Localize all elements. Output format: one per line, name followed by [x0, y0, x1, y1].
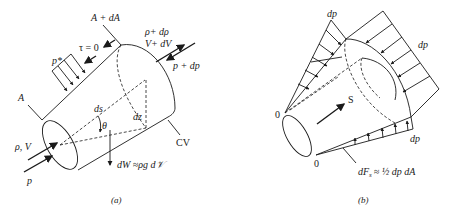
- label-outlet-pressure: p + dp: [172, 60, 200, 71]
- caption-a: (a): [111, 195, 122, 205]
- label-force: dFs≈ ½ dp dA: [358, 166, 416, 179]
- label-outlet-velocity: V+ dV: [145, 38, 173, 49]
- direction-arrow: [317, 104, 344, 124]
- label-inlet-pressure: p: [26, 175, 32, 186]
- label-origin-bottom: 0: [314, 158, 319, 169]
- figure-a: A A + dA τ = 0 p* ρ, V p ρ+ dρ V+ dV p +…: [14, 12, 200, 205]
- inlet-face-b: [277, 111, 317, 161]
- label-area-in: A: [17, 92, 25, 103]
- label-dp-right: dp: [418, 39, 428, 50]
- label-area-out: A + dA: [90, 12, 121, 23]
- label-control-volume: CV: [176, 137, 191, 148]
- label-pressure-side: p*: [51, 55, 62, 66]
- label-height: dz: [133, 111, 142, 122]
- inner-body: [362, 58, 396, 100]
- label-shear: τ = 0: [79, 42, 99, 53]
- figure-b: dp dp dp 0 0 S dFs≈ ½ dp dA (b): [275, 8, 439, 205]
- label-inlet-props: ρ, V: [14, 141, 33, 152]
- label-outlet-density: ρ+ dρ: [144, 26, 169, 37]
- caption-b: (b): [358, 195, 369, 205]
- label-dp-top: dp: [327, 8, 337, 19]
- label-direction: S: [348, 94, 354, 105]
- label-origin-top: 0: [275, 109, 280, 120]
- label-weight: dW ≈ρg d𝒱: [117, 159, 168, 170]
- label-dp-bottom: dp: [410, 133, 420, 144]
- label-angle: θ: [102, 120, 107, 131]
- inlet-pressure-arrow: [24, 156, 52, 172]
- diagram-stage: A A + dA τ = 0 p* ρ, V p ρ+ dρ V+ dV p +…: [0, 0, 459, 212]
- label-length: ds: [94, 103, 103, 114]
- outlet-face-b: [346, 39, 411, 117]
